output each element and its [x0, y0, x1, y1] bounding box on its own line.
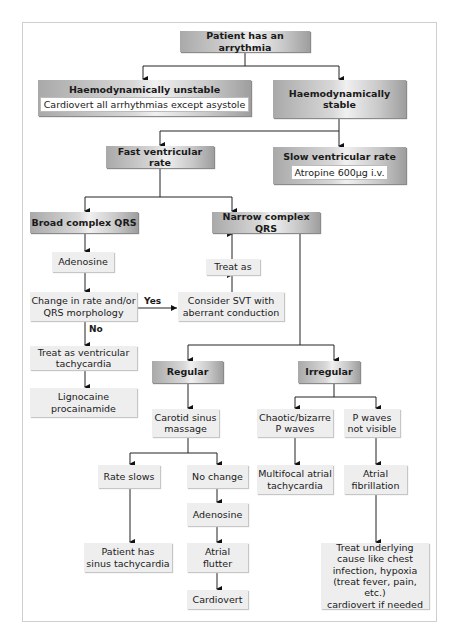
node-label-line: cardiovert if needed — [327, 599, 423, 610]
node-label-line: P waves — [276, 423, 315, 434]
node-adenosine-broad: Adenosine — [52, 252, 114, 272]
node-label: Broad complex QRS — [31, 217, 136, 228]
node-slow-rate: Slow ventricular rate Atropine 600µg i.v… — [273, 147, 406, 184]
node-label-line: Change in rate and/or — [31, 295, 135, 306]
node-label: Treat as — [214, 261, 251, 272]
node-label: Patient has an arrythmia — [180, 30, 310, 53]
node-irregular: Irregular — [298, 361, 360, 383]
node-label-line: tachycardia — [56, 358, 112, 369]
node-label-line: not visible — [348, 423, 397, 434]
node-label-line: fibrillation — [352, 480, 400, 491]
node-label-line: procainamide — [51, 403, 116, 414]
node-p-not-visible: P waves not visible — [344, 409, 400, 437]
node-treat-vt: Treat as ventricular tachycardia — [30, 346, 137, 370]
node-label: Haemodynamically unstable — [69, 84, 220, 95]
node-label-line: Patient has — [102, 546, 155, 557]
node-label-line: cause like chest — [337, 553, 413, 564]
node-label: Adenosine — [58, 256, 108, 267]
node-label-line: flutter — [203, 558, 232, 569]
node-label-line: Treat underlying — [336, 542, 413, 553]
node-label-line: Treat as ventricular — [38, 347, 130, 358]
node-label-line: Carotid sinus — [155, 412, 217, 423]
node-atrial-flutter: Atrial flutter — [187, 543, 248, 572]
node-atrial-fibrillation: Atrial fibrillation — [344, 465, 407, 494]
node-treat-as: Treat as — [206, 259, 260, 275]
node-label-line: tachycardia — [267, 480, 323, 491]
node-broad-qrs: Broad complex QRS — [30, 212, 138, 233]
node-label-line: QRS morphology — [43, 307, 123, 318]
node-chaotic-p-waves: Chaotic/bizarre P waves — [257, 409, 333, 437]
node-action: Atropine 600µg i.v. — [291, 165, 389, 180]
node-label: Slow ventricular rate — [283, 151, 396, 162]
node-adenosine-regular: Adenosine — [187, 503, 248, 526]
node-label: No change — [192, 471, 243, 482]
node-label-line: Consider SVT with — [188, 295, 274, 306]
node-label: Regular — [167, 366, 209, 377]
node-label-line: Atrial — [363, 468, 388, 479]
node-fast-rate: Fast ventricular rate — [106, 146, 214, 168]
node-label-line: Multifocal atrial — [258, 468, 332, 479]
node-unstable: Haemodynamically unstable Cardiovert all… — [38, 80, 251, 116]
node-sinus-tachycardia: Patient has sinus tachycardia — [84, 543, 172, 572]
node-label: Haemodynamically stable — [273, 88, 406, 111]
node-treat-underlying: Treat underlying cause like chest infect… — [321, 543, 429, 609]
node-label-line: (treat fever, pain, etc.) — [321, 576, 429, 599]
node-label-line: infection, hypoxia — [333, 565, 418, 576]
node-label-line: aberrant conduction — [183, 307, 279, 318]
node-label-line: Lignocaine — [58, 391, 109, 402]
node-label-line: sinus tachycardia — [86, 558, 169, 569]
node-label-line: Atrial — [205, 546, 230, 557]
node-narrow-qrs: Narrow complex QRS — [212, 212, 320, 233]
node-label-line: massage — [164, 423, 207, 434]
node-change-morphology: Change in rate and/or QRS morphology — [30, 292, 137, 321]
node-label: Rate slows — [104, 471, 155, 482]
no-label: No — [89, 324, 103, 334]
node-label: Fast ventricular rate — [106, 146, 214, 169]
node-label: Cardiovert — [193, 594, 243, 605]
node-label: Narrow complex QRS — [212, 211, 320, 234]
node-regular: Regular — [152, 361, 223, 383]
node-consider-svt: Consider SVT with aberrant conduction — [178, 292, 284, 321]
node-stable: Haemodynamically stable — [273, 80, 406, 118]
node-lignocaine: Lignocaine procainamide — [30, 388, 137, 417]
node-label-line: P waves — [353, 412, 392, 423]
node-root: Patient has an arrythmia — [180, 31, 310, 52]
node-cardiovert: Cardiovert — [187, 590, 248, 609]
node-action: Cardiovert all arrhythmias except asysto… — [40, 97, 250, 112]
node-label: Irregular — [305, 366, 352, 377]
node-rate-slows: Rate slows — [98, 465, 160, 488]
node-label-line: Chaotic/bizarre — [259, 412, 331, 423]
node-multifocal-atrial: Multifocal atrial tachycardia — [257, 465, 333, 494]
node-no-change: No change — [187, 465, 248, 488]
node-carotid-massage: Carotid sinus massage — [152, 409, 219, 437]
yes-label: Yes — [144, 296, 161, 306]
node-label: Adenosine — [193, 509, 243, 520]
